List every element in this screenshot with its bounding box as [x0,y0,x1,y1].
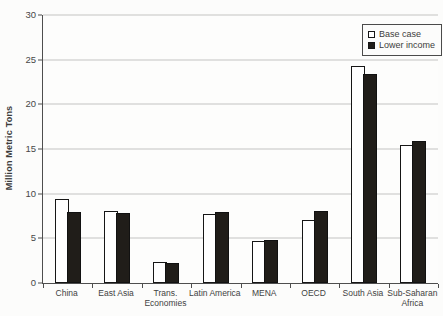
gridline-25 [43,59,438,60]
y-tick-30 [38,15,42,16]
legend-item-base-case: Base case [368,29,435,39]
y-axis-labels: 051015202530 [6,15,36,283]
category-label: Sub-Saharan Africa [382,288,442,308]
y-tick-label: 15 [6,144,36,154]
bar-lower-income [116,213,130,283]
base-case-swatch-icon [368,31,375,38]
bar-chart: Million Metric Tons 051015202530 ChinaEa… [0,0,443,316]
gridline-20 [43,104,438,105]
y-tick-0 [38,283,42,284]
x-axis-labels: ChinaEast AsiaTrans. EconomiesLatin Amer… [42,288,437,314]
y-tick-15 [38,149,42,150]
gridline-30 [43,15,438,16]
y-tick-label: 0 [6,278,36,288]
y-tick-label: 10 [6,189,36,199]
y-tick-label: 5 [6,233,36,243]
y-tick-5 [38,238,42,239]
y-tick-label: 25 [6,55,36,65]
legend-label: Lower income [379,40,435,50]
bar-lower-income [314,211,328,283]
bar-lower-income [264,240,278,283]
bar-lower-income [165,263,179,283]
y-tick-20 [38,104,42,105]
y-tick-25 [38,59,42,60]
legend: Base case Lower income [362,24,442,56]
legend-label: Base case [379,29,421,39]
gridline-15 [43,149,438,150]
bar-lower-income [67,212,81,283]
legend-item-lower-income: Lower income [368,40,435,50]
bar-lower-income [412,141,426,283]
lower-income-swatch-icon [368,42,375,49]
bar-lower-income [215,212,229,283]
bar-lower-income [363,74,377,283]
y-tick-label: 20 [6,99,36,109]
gridline-10 [43,193,438,194]
y-tick-10 [38,193,42,194]
y-tick-label: 30 [6,10,36,20]
gridline-5 [43,238,438,239]
